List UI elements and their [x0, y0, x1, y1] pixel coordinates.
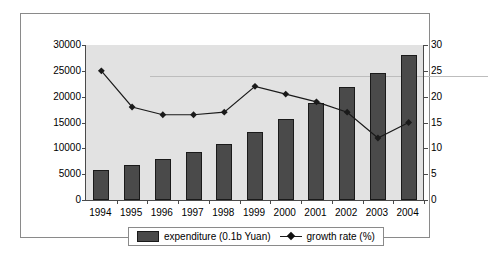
x-axis-tick-label: 1994 [84, 208, 116, 218]
left-axis-tick [82, 200, 86, 201]
bar-swatch-icon [137, 231, 159, 242]
bar [186, 152, 202, 200]
x-axis-tick [363, 200, 364, 204]
bar [370, 73, 386, 200]
left-axis-tick [82, 148, 86, 149]
growth-rate-marker [190, 111, 197, 118]
legend-item-expenditure: expenditure (0.1b Yuan) [137, 231, 271, 242]
bar [401, 55, 417, 200]
x-axis-tick [301, 200, 302, 204]
x-axis-tick-label: 1999 [238, 208, 270, 218]
plot-top-border [150, 76, 488, 77]
legend-item-growth-rate: growth rate (%) [280, 231, 375, 242]
growth-rate-line [101, 71, 408, 138]
right-axis-tick [423, 200, 428, 201]
x-axis-tick-label: 1995 [115, 208, 147, 218]
right-axis-tick-label: 15 [431, 118, 442, 128]
bar [278, 119, 294, 200]
legend-label-expenditure: expenditure (0.1b Yuan) [164, 231, 271, 242]
left-axis-labels: 050001000015000200002500030000 [39, 27, 81, 250]
left-axis-tick [82, 123, 86, 124]
growth-rate-marker [252, 83, 259, 90]
x-axis-tick-label: 1998 [207, 208, 239, 218]
right-axis-tick [423, 97, 428, 98]
right-axis-tick [423, 71, 428, 72]
right-axis-tick-label: 0 [431, 195, 437, 205]
x-axis-tick [240, 200, 241, 204]
x-axis-tick-label: 1997 [177, 208, 209, 218]
x-axis-tick-label: 2001 [299, 208, 331, 218]
growth-rate-marker [221, 109, 228, 116]
left-axis-tick-label: 0 [75, 195, 81, 205]
growth-rate-marker [129, 104, 136, 111]
left-axis-tick-label: 25000 [53, 66, 81, 76]
bar [155, 159, 171, 200]
right-axis-tick-label: 5 [431, 169, 437, 179]
x-axis-tick [393, 200, 394, 204]
bar [339, 87, 355, 200]
left-axis-tick-label: 15000 [53, 118, 81, 128]
growth-rate-marker [159, 111, 166, 118]
x-axis-tick [178, 200, 179, 204]
growth-rate-marker [282, 91, 289, 98]
right-axis-tick-label: 30 [431, 40, 442, 50]
right-axis-tick-label: 10 [431, 143, 442, 153]
x-axis-tick-label: 2002 [330, 208, 362, 218]
right-axis-tick [423, 45, 428, 46]
x-axis-tick-label: 2000 [269, 208, 301, 218]
right-axis-tick [423, 148, 428, 149]
bar [216, 144, 232, 200]
bar [247, 132, 263, 200]
plot-area [85, 45, 424, 201]
left-axis-tick-label: 5000 [59, 169, 81, 179]
left-axis-tick-label: 10000 [53, 143, 81, 153]
bar [124, 165, 140, 200]
x-axis-tick [147, 200, 148, 204]
x-axis-tick [332, 200, 333, 204]
left-axis-tick [82, 174, 86, 175]
left-axis-tick-label: 20000 [53, 92, 81, 102]
chart-legend: expenditure (0.1b Yuan) growth rate (%) [128, 227, 384, 246]
right-axis-tick-label: 25 [431, 66, 442, 76]
right-axis-tick [423, 123, 428, 124]
bar [308, 103, 324, 200]
left-axis-tick-label: 30000 [53, 40, 81, 50]
bar [93, 170, 109, 200]
right-axis-tick [423, 174, 428, 175]
right-axis-tick-label: 20 [431, 92, 442, 102]
right-axis-labels: 051015202530 [431, 27, 459, 250]
x-axis-tick-label: 2004 [392, 208, 424, 218]
left-axis-tick [82, 71, 86, 72]
growth-rate-marker [98, 67, 105, 74]
x-axis-tick [209, 200, 210, 204]
x-axis-tick [270, 200, 271, 204]
x-axis-tick-label: 2003 [361, 208, 393, 218]
left-axis-tick [82, 45, 86, 46]
legend-label-growth-rate: growth rate (%) [307, 231, 375, 242]
chart-frame: 050001000015000200002500030000 051015202… [20, 13, 430, 238]
line-marker-icon [280, 232, 302, 241]
left-axis-tick [82, 97, 86, 98]
x-axis-tick [117, 200, 118, 204]
x-axis-tick-label: 1996 [146, 208, 178, 218]
